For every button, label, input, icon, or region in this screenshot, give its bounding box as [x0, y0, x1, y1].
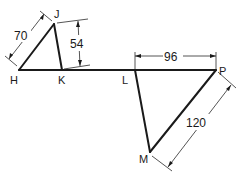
point-label-p: P [219, 65, 226, 77]
dimension-hj-label: 70 [14, 29, 28, 43]
segment-lm [135, 70, 150, 152]
dimension-mp-label: 120 [186, 116, 206, 130]
point-label-k: K [58, 74, 66, 86]
dimension-lp-label: 96 [164, 50, 178, 64]
point-label-h: H [10, 74, 18, 86]
segment-jk [54, 24, 62, 70]
triangle-diagram: 70 54 96 [0, 0, 237, 172]
point-label-l: L [122, 74, 128, 86]
dimension-lp: 96 [135, 49, 216, 69]
point-label-m: M [139, 153, 148, 165]
dimension-jk-label: 54 [70, 37, 84, 51]
segment-mp [150, 70, 216, 152]
point-label-j: J [54, 8, 60, 20]
dimension-mp: 120 [152, 72, 236, 171]
dimension-jk-vertical: 54 [57, 19, 90, 69]
